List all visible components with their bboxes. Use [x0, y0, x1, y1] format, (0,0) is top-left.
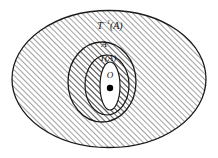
nested-set-diagram: T−1(A) A T(A) O — [0, 0, 218, 158]
label-t-inverse-a-superscript: −1 — [103, 19, 110, 25]
label-t-inverse-a: T−1(A) — [97, 19, 123, 32]
label-set-a: A — [100, 39, 107, 49]
label-t-inverse-a-suffix: (A) — [110, 20, 123, 32]
label-t-of-a: T(A) — [100, 53, 117, 63]
figure-container: T−1(A) A T(A) O — [0, 0, 218, 158]
origin-point — [107, 85, 113, 91]
label-origin: O — [107, 70, 114, 80]
